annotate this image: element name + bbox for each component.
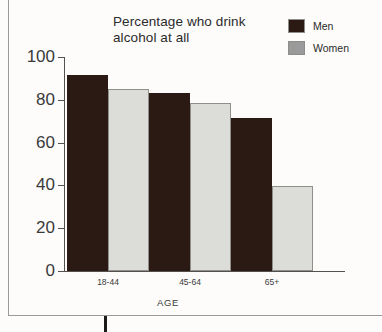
y-tick-mark: [58, 143, 64, 144]
x-tick-label-65+: 65+: [265, 277, 279, 287]
legend-swatch-men: [288, 19, 305, 33]
x-axis-title: AGE: [157, 297, 179, 308]
bar-men-18-44: [67, 75, 108, 271]
chart-title-line-1: Percentage who drink: [113, 14, 283, 30]
y-tick-label: 100: [27, 47, 55, 67]
y-tick-mark: [58, 185, 64, 186]
y-tick-label: 60: [36, 133, 55, 153]
legend-item-women: Women: [288, 38, 349, 58]
x-tick-label-45-64: 45-64: [179, 277, 201, 287]
y-tick-label: 0: [46, 261, 55, 281]
y-tick-label: 40: [36, 175, 55, 195]
chart-title-line-2: alcohol at all: [113, 30, 283, 46]
chart-legend: Men Women: [288, 16, 349, 60]
x-tick-label-18-44: 18-44: [97, 277, 119, 287]
bar-men-45-64: [149, 93, 190, 271]
bar-series-group: [65, 57, 345, 271]
y-tick-label: 20: [36, 218, 55, 238]
y-tick-mark: [58, 228, 64, 229]
legend-item-men: Men: [288, 16, 349, 36]
bar-women-65+: [272, 186, 313, 271]
plot-area: 020406080100 18-4445-6465+ AGE: [64, 57, 345, 271]
bar-men-65+: [231, 118, 272, 271]
bar-women-45-64: [190, 103, 231, 271]
chart-figure: Percentage who drink alcohol at all Men …: [0, 0, 382, 332]
legend-label-men: Men: [313, 20, 333, 32]
page-divider-mark: [104, 316, 107, 332]
chart-title: Percentage who drink alcohol at all: [113, 14, 283, 46]
y-tick-mark: [58, 57, 64, 58]
legend-label-women: Women: [313, 42, 349, 54]
bar-women-18-44: [108, 89, 149, 271]
x-axis-line: [64, 271, 345, 272]
legend-swatch-women: [288, 41, 305, 55]
page-border-left: [8, 0, 9, 316]
page-border-bottom: [8, 315, 382, 316]
y-tick-mark: [58, 100, 64, 101]
y-tick-mark: [58, 271, 64, 272]
y-tick-label: 80: [36, 90, 55, 110]
